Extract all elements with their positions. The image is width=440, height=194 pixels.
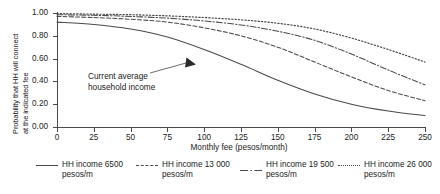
chart-legend: HH income 6500pesos/mHH income 13 000pes… <box>0 160 440 194</box>
legend-label-line1: HH income 6500 <box>62 160 123 169</box>
annotation-leader-line <box>150 63 186 73</box>
legend-label-line2: pesos/m <box>364 170 432 180</box>
legend-label-line1: HH income 19 500 <box>266 160 334 169</box>
annotation-line1: Current average <box>88 71 155 82</box>
curve-series-0 <box>57 22 425 115</box>
legend-label: HH income 13 000pesos/m <box>162 160 230 181</box>
legend-label-line2: pesos/m <box>162 170 230 180</box>
annotation-current-average-household-income: Current average household income <box>88 71 155 92</box>
legend-label-line1: HH income 13 000 <box>162 160 230 169</box>
curve-series-3 <box>57 14 425 62</box>
legend-label: HH income 26 000pesos/m <box>364 160 432 181</box>
annotation-arrowhead-icon <box>185 58 196 68</box>
legend-label-line2: pesos/m <box>62 170 123 180</box>
annotation-line2: household income <box>88 82 155 93</box>
legend-line-key <box>136 165 158 166</box>
legend-label: HH income 6500pesos/m <box>62 160 123 181</box>
legend-label-line1: HH income 26 000 <box>364 160 432 169</box>
legend-label: HH income 19 500pesos/m <box>266 160 334 181</box>
legend-line-key <box>338 165 360 166</box>
chart-figure: Probability that HH will connect at the … <box>0 0 440 194</box>
legend-line-key <box>36 165 58 166</box>
legend-label-line2: pesos/m <box>266 170 334 180</box>
